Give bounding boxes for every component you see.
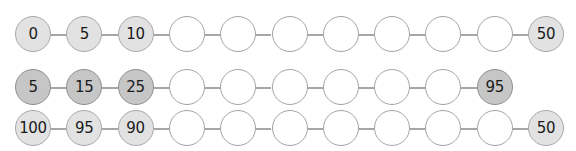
empty-circle[interactable]	[425, 69, 461, 105]
connector-line	[256, 34, 271, 36]
empty-circle[interactable]	[169, 110, 205, 146]
connector-line	[513, 128, 528, 130]
empty-circle[interactable]	[220, 16, 256, 52]
connector-line	[205, 87, 220, 89]
connector-line	[102, 87, 117, 89]
empty-circle[interactable]	[323, 16, 359, 52]
empty-circle[interactable]	[374, 110, 410, 146]
number-circle: 95	[477, 69, 513, 105]
connector-line	[461, 87, 476, 89]
connector-line	[256, 128, 271, 130]
connector-line	[205, 128, 220, 130]
connector-line	[410, 87, 425, 89]
connector-line	[205, 34, 220, 36]
empty-circle[interactable]	[272, 16, 308, 52]
connector-line	[513, 34, 528, 36]
connector-line	[51, 34, 66, 36]
connector-line	[154, 34, 169, 36]
number-circle: 95	[66, 110, 102, 146]
number-circle: 50	[528, 16, 564, 52]
connector-line	[102, 34, 117, 36]
number-circle: 100	[15, 110, 51, 146]
empty-circle[interactable]	[272, 110, 308, 146]
empty-circle[interactable]	[425, 16, 461, 52]
empty-circle[interactable]	[220, 69, 256, 105]
number-circle: 5	[15, 69, 51, 105]
connector-line	[461, 128, 476, 130]
connector-line	[359, 128, 374, 130]
empty-circle[interactable]	[272, 69, 308, 105]
connector-line	[154, 128, 169, 130]
connector-line	[308, 128, 323, 130]
connector-line	[359, 34, 374, 36]
empty-circle[interactable]	[374, 69, 410, 105]
connector-line	[51, 128, 66, 130]
number-circle: 0	[15, 16, 51, 52]
empty-circle[interactable]	[425, 110, 461, 146]
sequence-row-3: 100959050	[0, 109, 576, 149]
number-circle: 25	[118, 69, 154, 105]
number-circle: 90	[118, 110, 154, 146]
connector-line	[410, 128, 425, 130]
sequence-row-1: 051050	[0, 15, 576, 55]
empty-circle[interactable]	[374, 16, 410, 52]
number-circle: 50	[528, 110, 564, 146]
empty-circle[interactable]	[477, 16, 513, 52]
connector-line	[51, 87, 66, 89]
connector-line	[308, 87, 323, 89]
connector-line	[359, 87, 374, 89]
number-circle: 5	[66, 16, 102, 52]
sequence-row-2: 5152595	[0, 68, 576, 108]
empty-circle[interactable]	[169, 69, 205, 105]
empty-circle[interactable]	[169, 16, 205, 52]
number-circle: 15	[66, 69, 102, 105]
empty-circle[interactable]	[323, 69, 359, 105]
connector-line	[461, 34, 476, 36]
empty-circle[interactable]	[477, 110, 513, 146]
empty-circle[interactable]	[220, 110, 256, 146]
connector-line	[154, 87, 169, 89]
empty-circle[interactable]	[323, 110, 359, 146]
connector-line	[308, 34, 323, 36]
connector-line	[256, 87, 271, 89]
connector-line	[102, 128, 117, 130]
number-circle: 10	[118, 16, 154, 52]
connector-line	[410, 34, 425, 36]
